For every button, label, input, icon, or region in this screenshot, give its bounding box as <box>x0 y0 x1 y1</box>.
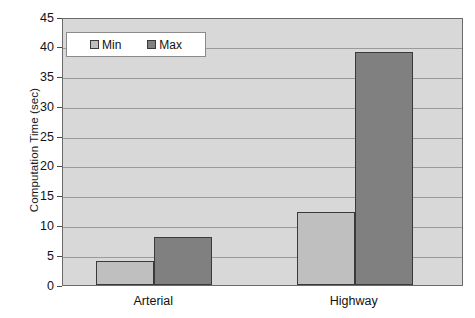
legend-swatch-min-icon <box>90 40 99 49</box>
y-tick-label: 40 <box>14 41 54 53</box>
y-tick-label: 30 <box>14 101 54 113</box>
bar-arterial-max <box>154 237 212 285</box>
bar-arterial-min <box>96 261 154 285</box>
y-tick-label: 15 <box>14 190 54 202</box>
y-tick-label: 10 <box>14 220 54 232</box>
legend-label-max: Max <box>159 38 182 52</box>
legend-entry-max: Max <box>147 38 182 52</box>
bar-chart: Computation Time (sec) 45403530252015105… <box>0 0 475 318</box>
legend-label-min: Min <box>102 38 121 52</box>
y-tick-label: 0 <box>14 280 54 292</box>
y-tick-label: 25 <box>14 131 54 143</box>
bar-highway-max <box>355 52 413 285</box>
bar-highway-min <box>297 212 355 285</box>
x-axis-label-arterial: Arterial <box>108 294 198 308</box>
y-tick-label: 20 <box>14 160 54 172</box>
chart-legend: Min Max <box>66 32 206 57</box>
plot-area <box>62 18 463 286</box>
x-axis-label-highway: Highway <box>309 294 399 308</box>
legend-swatch-max-icon <box>147 40 156 49</box>
legend-entry-min: Min <box>90 38 121 52</box>
y-tick-label: 45 <box>14 12 54 24</box>
y-tick-label: 35 <box>14 71 54 83</box>
y-tick-label: 5 <box>14 250 54 262</box>
